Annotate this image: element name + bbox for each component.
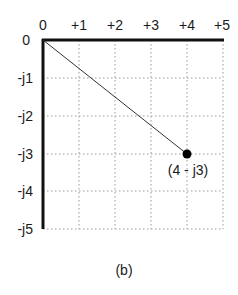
y-tick-label: -j3 (17, 146, 33, 162)
y-tick-label: -j1 (17, 70, 33, 86)
grid (43, 40, 223, 229)
x-tick-label: +4 (179, 17, 195, 33)
x-tick-label: +3 (143, 17, 159, 33)
y-tick-label: -j5 (17, 221, 33, 237)
x-tick-label: 0 (39, 17, 47, 33)
point-marker (183, 150, 192, 159)
x-tick-label: +2 (107, 17, 123, 33)
y-tick-label: -j2 (17, 108, 33, 124)
figure-caption: (b) (115, 262, 132, 278)
x-tick-label: +1 (71, 17, 87, 33)
x-tick-label: +5 (214, 17, 230, 33)
point-label: (4 - j3) (168, 162, 208, 178)
y-tick-label: 0 (22, 32, 30, 48)
complex-plane-diagram: 0 +1 +2 +3 +4 +5 0 -j1 -j2 -j3 -j4 -j5 (… (0, 0, 238, 295)
y-tick-label: -j4 (17, 183, 33, 199)
